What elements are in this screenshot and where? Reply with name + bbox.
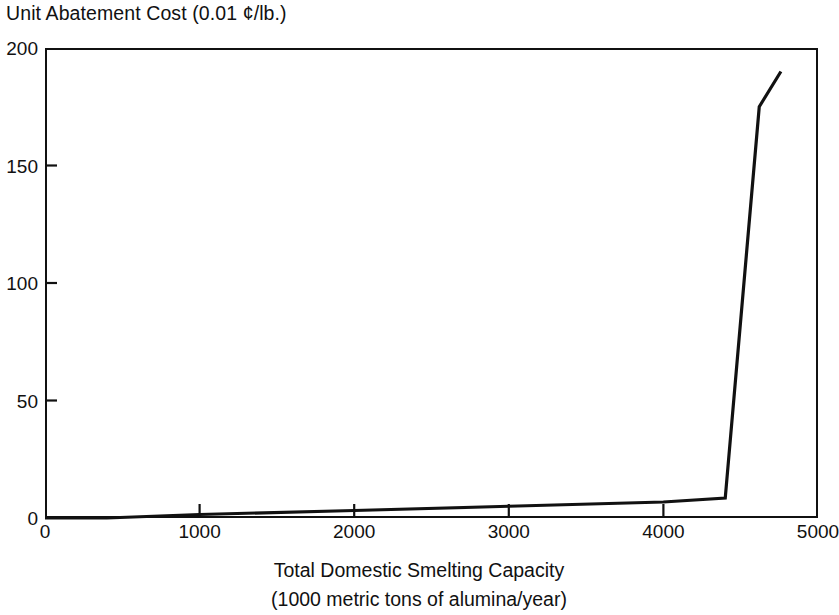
x-tick-label: 2000	[333, 522, 375, 541]
data-line-svg	[45, 48, 818, 518]
x-axis-title: Total Domestic Smelting Capacity (1000 m…	[0, 556, 838, 614]
abatement-cost-line	[45, 72, 781, 519]
x-axis-title-line-1: Total Domestic Smelting Capacity	[274, 559, 564, 581]
x-tick-label: 3000	[488, 522, 530, 541]
y-tick-label: 150	[6, 157, 38, 176]
y-tick-label: 100	[6, 274, 38, 293]
x-axis-title-line-2: (1000 metric tons of alumina/year)	[0, 585, 838, 614]
y-tick-label: 0	[27, 509, 38, 528]
x-tick-label: 5000	[797, 522, 839, 541]
x-tick-label: 1000	[178, 522, 220, 541]
plot-area	[45, 48, 818, 518]
y-tick-label: 200	[6, 39, 38, 58]
y-tick-label: 50	[17, 392, 38, 411]
y-axis-title: Unit Abatement Cost (0.01 ¢/lb.)	[6, 2, 287, 25]
y-axis-ticks	[45, 166, 57, 401]
x-axis-ticks	[200, 504, 664, 518]
y-axis-tick-labels: 050100150200	[0, 48, 38, 518]
x-tick-label: 4000	[642, 522, 684, 541]
x-axis-tick-labels: 010002000300040005000	[45, 522, 818, 552]
x-tick-label: 0	[40, 522, 51, 541]
